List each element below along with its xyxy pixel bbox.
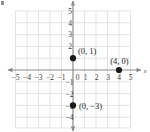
x-axis-label: x — [143, 68, 147, 74]
data-point-0-1 — [70, 55, 76, 61]
x-tick-label--4: −4 — [23, 73, 31, 82]
point-label-4-0: (4, 0) — [110, 56, 129, 66]
x-tick-label-3: 3 — [106, 73, 110, 82]
x-tick-label--2: −2 — [46, 73, 54, 82]
x-tick-label-5: 5 — [129, 73, 133, 82]
y-axis-arrow-up — [71, 1, 75, 6]
axis-arrowheads — [8, 1, 142, 132]
y-tick-label-2: 2 — [68, 42, 72, 51]
x-tick-label-1: 1 — [84, 73, 88, 82]
x-tick-label-2: 2 — [95, 73, 99, 82]
point-label-0-1: (0, 1) — [78, 46, 97, 56]
y-tick-label--4: −4 — [66, 113, 74, 122]
x-tick-label-4: 4 — [117, 73, 121, 82]
coordinate-plane-svg: −5 −4 −3 −2 −1 0 1 2 3 4 5 5 4 3 2 −1 −2… — [0, 0, 150, 132]
x-tick-label-0: 0 — [76, 73, 80, 82]
data-point-0--3 — [70, 102, 76, 108]
point-label-0--3: (0, −3) — [79, 101, 102, 111]
x-tick-label--3: −3 — [35, 73, 43, 82]
x-tick-label--5: −5 — [12, 73, 20, 82]
y-tick-label--2: −2 — [66, 90, 74, 99]
axis-lines — [8, 1, 141, 131]
data-point-4-0 — [116, 67, 122, 73]
x-tick-label--1: −1 — [58, 73, 66, 82]
y-tick-label-3: 3 — [68, 30, 72, 39]
y-tick-label-4: 4 — [68, 19, 72, 28]
x-axis-arrow-right — [137, 68, 142, 72]
y-tick-label-5: 5 — [68, 7, 72, 16]
coordinate-plane-figure: −5 −4 −3 −2 −1 0 1 2 3 4 5 5 4 3 2 −1 −2… — [0, 0, 150, 132]
y-axis-arrow-down — [71, 127, 75, 132]
y-tick-label--1: −1 — [66, 78, 74, 87]
